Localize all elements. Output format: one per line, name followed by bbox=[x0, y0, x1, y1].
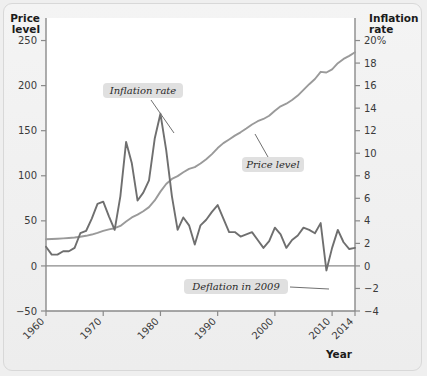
x-axis-tick-label: 1980 bbox=[135, 316, 161, 342]
chart-figure: −50050100150200250−4−202468101214161820%… bbox=[0, 0, 427, 376]
x-axis-tick-label: 2014 bbox=[330, 316, 356, 342]
x-axis-tick-label: 1970 bbox=[78, 316, 104, 342]
x-axis-tick-label: 2010 bbox=[307, 316, 333, 342]
right-axis-tick-label: 18 bbox=[364, 58, 377, 69]
right-axis-tick-label: 2 bbox=[364, 238, 370, 249]
price-level-callout-text: Price level bbox=[245, 159, 299, 170]
left-axis-tick-label: −50 bbox=[16, 306, 37, 317]
left-axis-title-line2: level bbox=[12, 23, 40, 35]
right-axis-tick-label: 0 bbox=[364, 261, 370, 272]
inflation-rate-callout-text: Inflation rate bbox=[109, 85, 177, 96]
left-axis-tick-label: 200 bbox=[18, 80, 37, 91]
right-axis-tick-label: −2 bbox=[364, 283, 379, 294]
left-axis-tick-label: 0 bbox=[31, 261, 37, 272]
deflation-callout-text: Deflation in 2009 bbox=[191, 281, 280, 292]
right-axis-title-line2: rate bbox=[369, 23, 393, 35]
right-axis-tick-label: 14 bbox=[364, 103, 377, 114]
right-axis-tick-label: 12 bbox=[364, 125, 377, 136]
right-axis-tick-label: 6 bbox=[364, 193, 370, 204]
left-axis-tick-label: 150 bbox=[18, 125, 37, 136]
x-axis-tick-label: 1960 bbox=[21, 316, 47, 342]
left-axis-tick-label: 100 bbox=[18, 170, 37, 181]
x-axis-title: Year bbox=[325, 348, 353, 360]
x-axis-tick-label: 2000 bbox=[250, 316, 276, 342]
right-axis-tick-label: 8 bbox=[364, 170, 370, 181]
x-axis-tick-label: 1990 bbox=[192, 316, 218, 342]
right-axis-tick-label: 10 bbox=[364, 148, 377, 159]
right-axis-tick-label: 16 bbox=[364, 80, 377, 91]
chart-canvas: −50050100150200250−4−202468101214161820%… bbox=[0, 0, 427, 376]
right-axis-tick-label: −4 bbox=[364, 306, 379, 317]
right-axis-tick-label: 4 bbox=[364, 215, 370, 226]
left-axis-tick-label: 50 bbox=[24, 215, 37, 226]
right-axis-tick-label: 20% bbox=[364, 35, 386, 46]
left-axis-tick-label: 250 bbox=[18, 35, 37, 46]
